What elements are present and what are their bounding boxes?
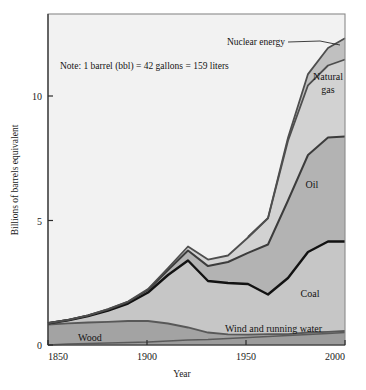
- barrel-note: Note: 1 barrel (bbl) = 42 gallons = 159 …: [60, 61, 229, 72]
- x-tick-label-1950: 1950: [236, 351, 256, 362]
- x-tick-label-2000: 2000: [325, 351, 345, 362]
- band-label-coal: Coal: [301, 288, 320, 299]
- band-label-wood: Wood: [78, 332, 102, 343]
- y-axis-title: Billions of barrels equivalent: [10, 124, 20, 235]
- nuclear-energy-callout-label: Nuclear energy: [227, 37, 285, 47]
- band-label-oil: Oil: [306, 179, 319, 190]
- y-tick-label-5: 5: [37, 216, 42, 227]
- x-axis-title: Year: [173, 369, 191, 379]
- y-tick-label-10: 10: [32, 91, 42, 102]
- energy-consumption-chart: 0 5 10 1850 1900 1950 2000 Year Billions…: [0, 0, 366, 390]
- band-label-wind-and-running-water: Wind and running water: [225, 323, 323, 334]
- band-label-natural-gas-line1: Natural: [313, 71, 343, 82]
- band-label-natural-gas-line2: gas: [321, 84, 334, 95]
- x-tick-label-1900: 1900: [137, 351, 157, 362]
- y-tick-label-0: 0: [37, 340, 42, 351]
- x-tick-label-1850: 1850: [48, 351, 68, 362]
